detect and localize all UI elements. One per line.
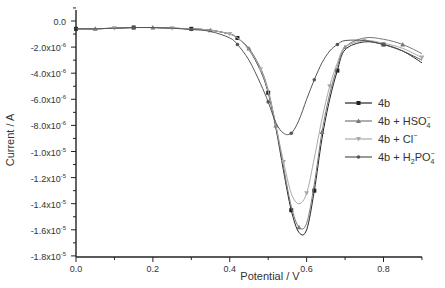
- marker-star: [266, 100, 270, 104]
- series-line: [76, 27, 422, 134]
- legend-label: 4b + HSO4−: [378, 114, 431, 129]
- marker-triangle-down: [304, 191, 309, 196]
- y-axis-label: Current / A: [4, 113, 16, 166]
- y-tick-label: -1.8x10-5: [31, 251, 67, 262]
- series-line: [76, 27, 422, 235]
- x-tick-label: 0.0: [70, 264, 83, 274]
- marker-star: [289, 131, 293, 135]
- legend-label: 4b: [378, 97, 390, 109]
- x-axis-label: Potential / V: [240, 270, 300, 282]
- series-layer: [74, 25, 424, 235]
- marker-star: [190, 28, 194, 32]
- series-line: [76, 27, 422, 229]
- marker-star: [357, 155, 361, 159]
- series-0: [74, 26, 422, 235]
- marker-star: [313, 78, 317, 82]
- legend: 4b4b + HSO4−4b + Cl−4b + H2PO4−: [345, 97, 435, 165]
- legend-label: 4b + H2PO4−: [378, 150, 435, 165]
- y-tick-label: -4.0x10-6: [31, 68, 67, 79]
- x-tick-label: 0.6: [300, 264, 313, 274]
- x-tick-label: 0.8: [377, 264, 390, 274]
- series-line: [76, 27, 422, 203]
- y-tick-label: -2.0x10-6: [31, 42, 67, 53]
- y-tick-label: -1.4x10-5: [31, 199, 67, 210]
- x-tick-label: 0.2: [147, 264, 160, 274]
- y-tick-label: -1.2x10-5: [31, 173, 67, 184]
- legend-label: 4b + Cl−: [378, 132, 417, 145]
- y-tick-label: 0.0: [53, 17, 66, 27]
- y-axis-ticks: 0.0-2.0x10-6-4.0x10-6-6.0x10-6-8.0x10-6-…: [31, 8, 76, 262]
- chart: 0.0-2.0x10-6-4.0x10-6-6.0x10-6-8.0x10-6-…: [0, 0, 445, 288]
- y-tick-label: -6.0x10-6: [31, 94, 67, 105]
- x-tick-label: 0.4: [223, 264, 236, 274]
- marker-star: [236, 43, 240, 47]
- marker-star: [382, 43, 386, 47]
- y-tick-label: -8.0x10-6: [31, 120, 67, 131]
- y-tick-label: -1.0x10-5: [31, 147, 67, 158]
- marker-star: [336, 43, 340, 47]
- series-1: [76, 25, 422, 229]
- marker-square: [357, 101, 361, 105]
- y-tick-label: -1.6x10-5: [31, 225, 67, 236]
- marker-star: [132, 26, 136, 30]
- series-2: [76, 26, 424, 204]
